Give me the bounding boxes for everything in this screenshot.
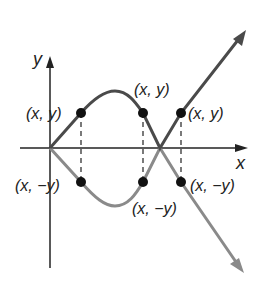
point-label-upper-left: (x, y) bbox=[26, 106, 62, 122]
lower-curve-arrow-icon bbox=[230, 258, 244, 273]
x-axis-arrow-icon bbox=[235, 144, 248, 152]
point-label-lower-right: (x, −y) bbox=[190, 178, 235, 194]
point-label-lower-middle: (x, −y) bbox=[132, 201, 177, 217]
diagram-canvas: y x (x, y) (x, y) (x, y) (x, −y) (x, −y)… bbox=[0, 0, 265, 282]
point-label-upper-right: (x, y) bbox=[188, 106, 224, 122]
y-axis-arrow-icon bbox=[46, 56, 54, 68]
x-axis-label: x bbox=[236, 154, 245, 172]
graph-svg bbox=[0, 0, 265, 282]
point-label-lower-left: (x, −y) bbox=[15, 178, 60, 194]
y-axis-label: y bbox=[33, 50, 42, 68]
point-label-upper-middle: (x, y) bbox=[134, 82, 170, 98]
